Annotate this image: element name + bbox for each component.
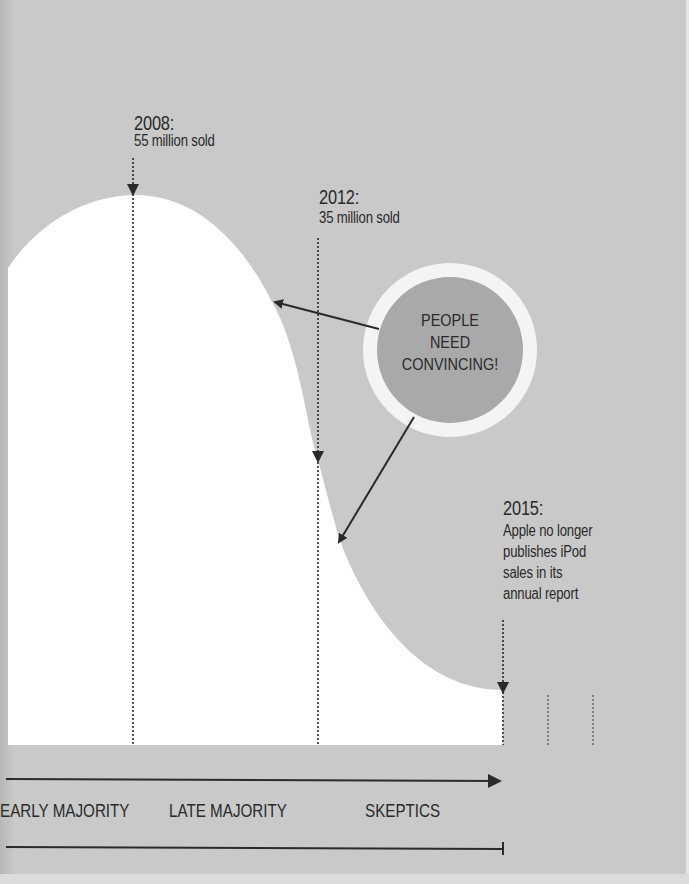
timeline-arrow bbox=[6, 779, 500, 781]
callout-text: PEOPLE NEED CONVINCING! bbox=[391, 310, 510, 376]
callout-arrow-upper bbox=[275, 302, 379, 329]
callout-line-1: PEOPLE bbox=[391, 310, 510, 332]
phase-bracket-line bbox=[6, 847, 503, 849]
note-2015-line-2: publishes iPod bbox=[503, 542, 586, 562]
callout-line-2: NEED bbox=[391, 332, 510, 354]
phase-skeptics: SKEPTICS bbox=[365, 799, 440, 823]
phase-early-majority: EARLY MAJORITY bbox=[0, 799, 130, 823]
sales-2012-label: 35 million sold bbox=[319, 208, 400, 228]
year-2012-label: 2012: bbox=[319, 186, 359, 208]
curve-graphic bbox=[0, 0, 689, 884]
phase-late-majority: LATE MAJORITY bbox=[169, 799, 287, 823]
note-2015-line-3: sales in its bbox=[503, 563, 562, 583]
note-2015-line-4: annual report bbox=[503, 584, 578, 604]
arrowhead-2008-icon bbox=[127, 184, 139, 196]
sales-2008-label: 55 million sold bbox=[134, 131, 215, 151]
note-2015-line-1: Apple no longer bbox=[503, 521, 592, 541]
callout-line-3: CONVINCING! bbox=[391, 354, 510, 376]
page-bottom-edge bbox=[0, 874, 689, 884]
year-2015-label: 2015: bbox=[503, 497, 543, 519]
callout-arrow-lower bbox=[339, 417, 414, 542]
adoption-curve-diagram: 2008: 55 million sold 2012: 35 million s… bbox=[0, 0, 689, 884]
